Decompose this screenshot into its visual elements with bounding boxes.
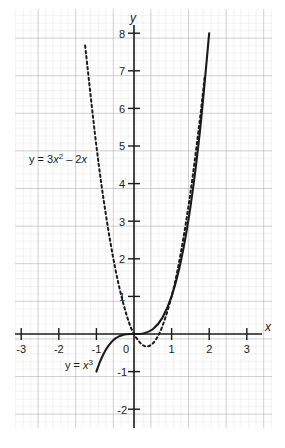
x-tick-label: -2 bbox=[54, 343, 64, 355]
x-tick-label: -1 bbox=[92, 343, 102, 355]
x-tick-label: -3 bbox=[16, 343, 26, 355]
x-tick-label: 3 bbox=[244, 343, 250, 355]
x-tick-label: 1 bbox=[169, 343, 175, 355]
y-tick-label: 3 bbox=[119, 216, 125, 228]
cubic-label-lead: y = bbox=[65, 359, 83, 371]
x-axis-label: x bbox=[264, 320, 272, 334]
y-axis-label: y bbox=[129, 11, 137, 25]
graph-figure: -3 -2 -1 0 1 2 3 8 7 6 5 4 3 2 1 -1 -2 x… bbox=[0, 0, 285, 448]
x-tick-label: 0 bbox=[123, 343, 129, 355]
y-tick-label: 4 bbox=[119, 178, 125, 190]
grid-lines bbox=[15, 9, 272, 428]
coordinate-plane: -3 -2 -1 0 1 2 3 8 7 6 5 4 3 2 1 -1 -2 x… bbox=[0, 0, 285, 448]
y-tick-label: 8 bbox=[119, 28, 125, 40]
y-tick-label: -2 bbox=[117, 404, 127, 416]
y-tick-label: 2 bbox=[119, 253, 125, 265]
y-tick-label: 6 bbox=[119, 103, 125, 115]
annotation-parabola-label: y = 3x2 – 2x bbox=[29, 152, 87, 166]
y-tick-label: 7 bbox=[119, 65, 125, 77]
y-tick-label: 5 bbox=[119, 140, 125, 152]
svg-text:y = 3x2 – 2x: y = 3x2 – 2x bbox=[29, 152, 87, 166]
parabola-label-lead: y = 3 bbox=[29, 153, 53, 165]
x-tick-label: 2 bbox=[206, 343, 212, 355]
y-tick-label: -1 bbox=[117, 366, 127, 378]
